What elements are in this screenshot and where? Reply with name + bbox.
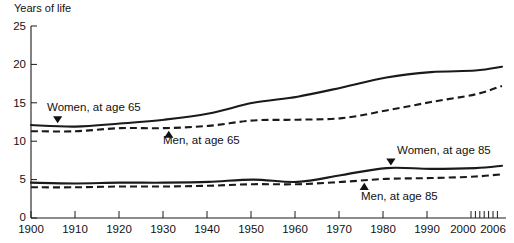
series-line-women-65 [31,67,502,127]
annotation-marker-women-85-triangle-down-icon [386,158,395,165]
annotation-marker-men-85-triangle-up-icon [360,183,369,190]
y-tick-marks [31,26,37,218]
chart-canvas [0,0,514,243]
series-line-women-85 [31,166,502,184]
x-minor-tick-marks [475,211,497,218]
annotation-marker-women-65-triangle-down-icon [53,116,62,123]
life-expectancy-chart: Years of life 25 20 15 10 5 0 1900 1910 … [0,0,514,243]
x-tick-marks [31,211,471,218]
annotation-marker-men-65-triangle-up-icon [164,131,173,138]
